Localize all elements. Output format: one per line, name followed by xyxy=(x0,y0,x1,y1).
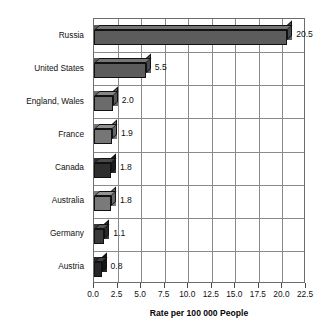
gridline-horizontal xyxy=(94,251,304,252)
gridline-vertical xyxy=(259,19,260,282)
bar xyxy=(94,262,102,277)
category-label: Australia xyxy=(52,195,84,205)
x-axis-tick xyxy=(211,283,212,288)
gridline-horizontal xyxy=(94,152,304,153)
bar-front-face xyxy=(94,30,287,45)
x-axis-title: Rate per 100 000 People xyxy=(93,308,305,318)
bar xyxy=(94,196,111,211)
category-label: Russia xyxy=(59,30,84,40)
x-axis-tick-label: 0.0 xyxy=(87,289,99,300)
gridline-vertical xyxy=(188,19,189,282)
x-axis-tick-label: 2.5 xyxy=(111,289,123,300)
bar-value-label: 1.8 xyxy=(120,162,132,172)
gridline-vertical xyxy=(235,19,236,282)
x-axis-tick xyxy=(258,283,259,288)
bar-front-face xyxy=(94,163,111,178)
x-axis-tick xyxy=(140,283,141,288)
x-axis-tick-label: 15.0 xyxy=(226,289,242,300)
bar xyxy=(94,129,112,144)
gridline-horizontal xyxy=(94,218,304,219)
x-axis-tick-label: 17.5 xyxy=(250,289,266,300)
x-axis-tick-label: 5.0 xyxy=(134,289,146,300)
gridline-horizontal xyxy=(94,118,304,119)
x-axis-tick xyxy=(117,283,118,288)
bar-front-face xyxy=(94,262,102,277)
bar-front-face xyxy=(94,196,111,211)
bar xyxy=(94,63,146,78)
bar-value-label: 1.8 xyxy=(120,195,132,205)
bar xyxy=(94,229,104,244)
category-label: United States xyxy=(34,63,84,73)
bar-value-label: 1.1 xyxy=(113,228,125,238)
x-axis-tick xyxy=(93,283,94,288)
bar-value-label: 1.9 xyxy=(121,128,133,138)
x-axis-tick-label: 12.5 xyxy=(203,289,219,300)
bar xyxy=(94,30,287,45)
bar-value-label: 5.5 xyxy=(155,62,167,72)
bar-value-label: 20.5 xyxy=(296,29,313,39)
x-axis-tick-label: 20.0 xyxy=(273,289,289,300)
bar-chart: RussiaUnited StatesEngland, WalesFranceC… xyxy=(0,0,327,330)
gridline-horizontal xyxy=(94,85,304,86)
gridline-vertical xyxy=(165,19,166,282)
x-axis-tick xyxy=(187,283,188,288)
bar-front-face xyxy=(94,129,112,144)
category-label: Germany xyxy=(50,228,84,238)
x-axis-tick xyxy=(164,283,165,288)
bar-value-label: 0.8 xyxy=(111,261,123,271)
bar-value-label: 2.0 xyxy=(122,95,134,105)
bar xyxy=(94,163,111,178)
x-axis-tick xyxy=(234,283,235,288)
bar xyxy=(94,96,113,111)
x-axis-tick xyxy=(305,283,306,288)
x-axis-tick-label: 7.5 xyxy=(158,289,170,300)
x-axis-tick-label: 22.5 xyxy=(297,289,313,300)
x-axis-tick-label: 10.0 xyxy=(179,289,195,300)
bar-front-face xyxy=(94,96,113,111)
category-label: Canada xyxy=(55,162,84,172)
gridline-horizontal xyxy=(94,185,304,186)
x-axis-tick-labels: 0.02.55.07.510.012.515.017.520.022.5 xyxy=(0,289,327,301)
gridline-vertical xyxy=(212,19,213,282)
gridline-vertical xyxy=(282,19,283,282)
bar-front-face xyxy=(94,229,104,244)
bar-front-face xyxy=(94,63,146,78)
plot-area: 20.55.52.01.91.81.81.10.8 xyxy=(93,18,305,283)
category-label: France xyxy=(58,129,84,139)
category-label: England, Wales xyxy=(26,96,84,106)
category-axis-labels: RussiaUnited StatesEngland, WalesFranceC… xyxy=(0,18,88,283)
gridline-horizontal xyxy=(94,52,304,53)
x-axis-tick xyxy=(281,283,282,288)
category-label: Austria xyxy=(58,261,84,271)
